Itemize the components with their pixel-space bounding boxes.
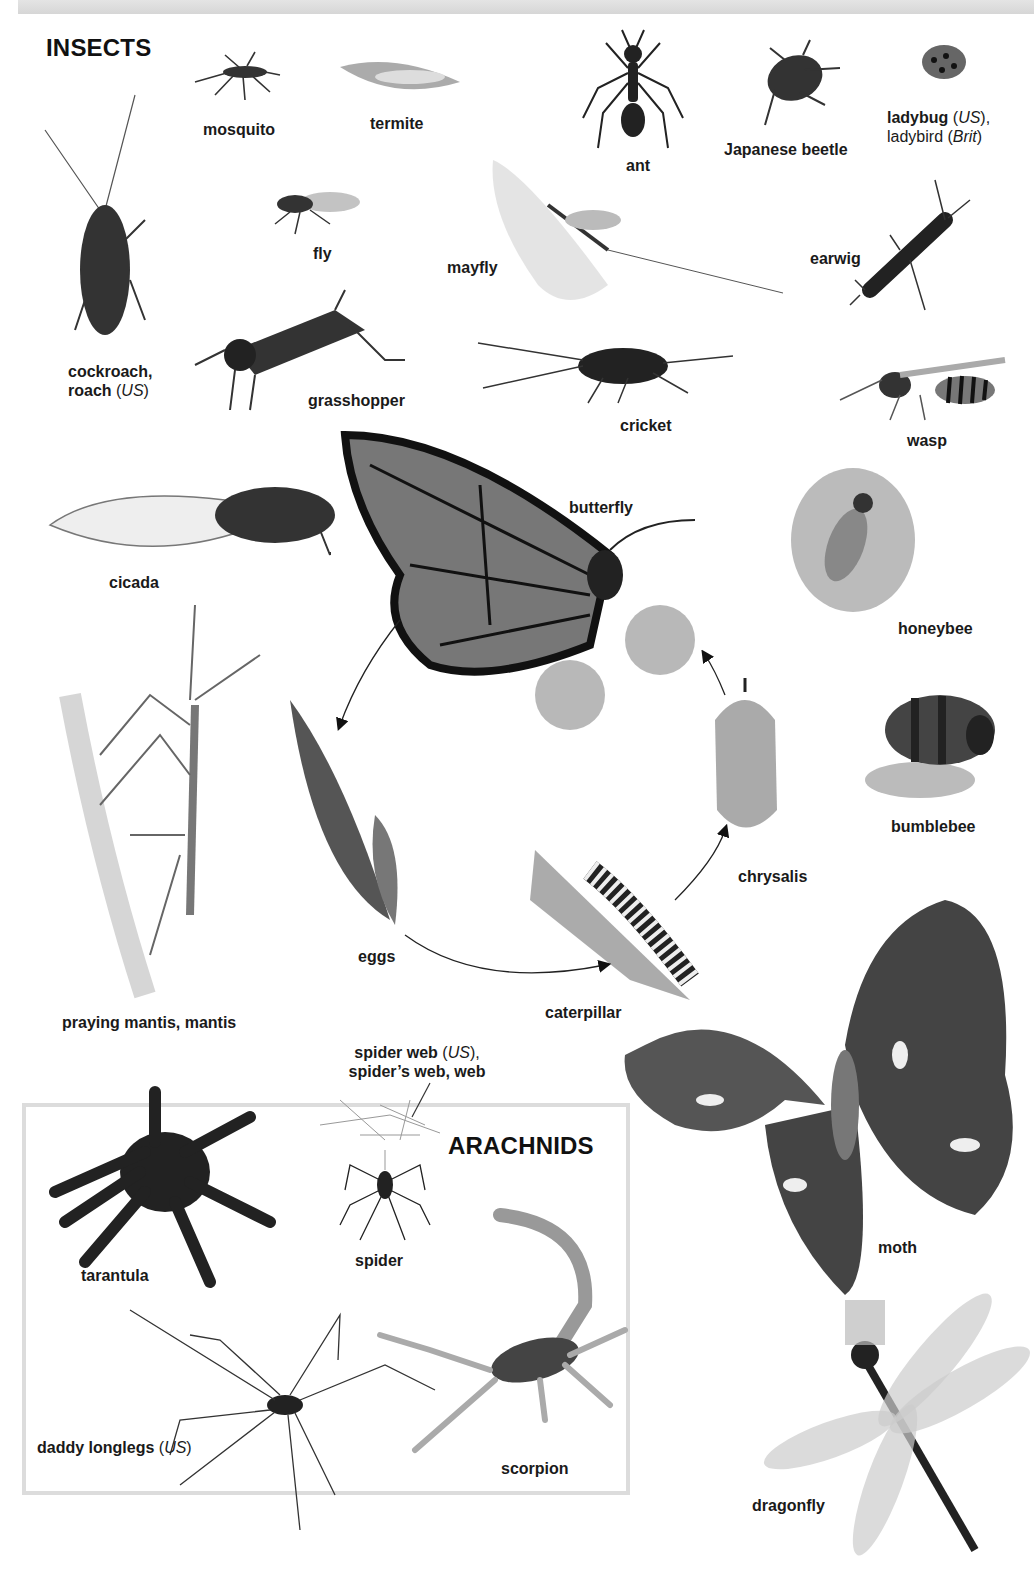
eggs-label: eggs xyxy=(358,947,395,966)
mosquito-label: mosquito xyxy=(203,120,275,139)
ladybug-label: ladybug (US), ladybird (Brit) xyxy=(887,108,990,146)
cricket-label: cricket xyxy=(620,416,672,435)
arachnids-heading: ARACHNIDS xyxy=(448,1132,594,1160)
mayfly-label: mayfly xyxy=(447,258,498,277)
japanese-beetle-label: Japanese beetle xyxy=(724,140,848,159)
spider-web-illustration xyxy=(320,1095,460,1150)
scorpion-label: scorpion xyxy=(501,1459,569,1478)
termite-label: termite xyxy=(370,114,423,133)
bumblebee-label: bumblebee xyxy=(891,817,975,836)
cockroach-illustration xyxy=(35,90,155,340)
chrysalis-label: chrysalis xyxy=(738,867,807,886)
mayfly-illustration xyxy=(488,155,788,305)
dragonfly-label: dragonfly xyxy=(752,1496,825,1515)
scorpion-illustration xyxy=(370,1205,635,1455)
fly-illustration xyxy=(255,182,365,237)
japanese-beetle-illustration xyxy=(745,40,845,130)
ant-label: ant xyxy=(626,156,650,175)
spider-web-label: spider web (US), spider’s web, web xyxy=(332,1043,502,1081)
termite-illustration xyxy=(335,52,465,102)
grasshopper-label: grasshopper xyxy=(308,391,405,410)
earwig-label: earwig xyxy=(810,249,861,268)
fly-label: fly xyxy=(313,244,332,263)
cicada-label: cicada xyxy=(109,573,159,592)
honeybee-illustration xyxy=(788,465,918,615)
mosquito-illustration xyxy=(185,50,295,110)
tarantula-label: tarantula xyxy=(81,1266,149,1285)
cockroach-label: cockroach, roach (US) xyxy=(68,362,152,400)
wasp-illustration xyxy=(840,355,1010,425)
honeybee-label: honeybee xyxy=(898,619,973,638)
daddy-longlegs-label: daddy longlegs (US) xyxy=(37,1438,192,1457)
butterfly-label: butterfly xyxy=(569,498,633,517)
ant-illustration xyxy=(578,28,688,153)
praying-mantis-illustration xyxy=(60,605,270,1005)
cricket-illustration xyxy=(478,338,738,408)
spider-label: spider xyxy=(355,1251,403,1270)
wasp-label: wasp xyxy=(907,431,947,450)
bumblebee-illustration xyxy=(860,680,1000,800)
moth-illustration xyxy=(615,895,1030,1295)
top-header-strip xyxy=(18,0,1034,14)
praying-mantis-label: praying mantis, mantis xyxy=(62,1013,236,1032)
tarantula-illustration xyxy=(45,1082,285,1282)
dragonfly-illustration xyxy=(765,1300,1025,1570)
moth-label: moth xyxy=(878,1238,917,1257)
ladybug-illustration xyxy=(910,36,975,91)
caterpillar-label: caterpillar xyxy=(545,1003,621,1022)
insects-heading: INSECTS xyxy=(46,34,151,62)
earwig-illustration xyxy=(850,180,980,320)
cicada-illustration xyxy=(45,480,335,570)
